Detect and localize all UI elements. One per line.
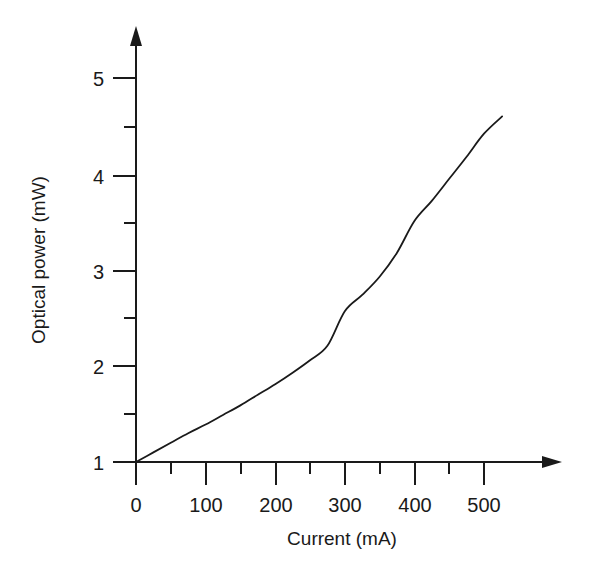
y-tick-label-4: 4: [93, 166, 104, 188]
y-tick-label-5: 5: [93, 68, 104, 90]
x-axis-title: Current (mA): [287, 528, 397, 549]
y-tick-label-3: 3: [93, 261, 104, 283]
optical-power-vs-current-chart: 1 2 3 4 5 0 100 200 300 400 500: [0, 0, 595, 570]
x-tick-label-400: 400: [398, 494, 431, 516]
y-tick-label-2: 2: [93, 356, 104, 378]
x-tick-label-0: 0: [130, 494, 141, 516]
y-axis-title: Optical power (mW): [28, 176, 49, 344]
x-tick-label-200: 200: [259, 494, 292, 516]
chart-figure: 1 2 3 4 5 0 100 200 300 400 500: [0, 0, 595, 570]
chart-background: [0, 0, 595, 570]
x-tick-label-500: 500: [467, 494, 500, 516]
x-tick-label-100: 100: [189, 494, 222, 516]
x-tick-label-300: 300: [328, 494, 361, 516]
y-tick-label-1: 1: [93, 452, 104, 474]
